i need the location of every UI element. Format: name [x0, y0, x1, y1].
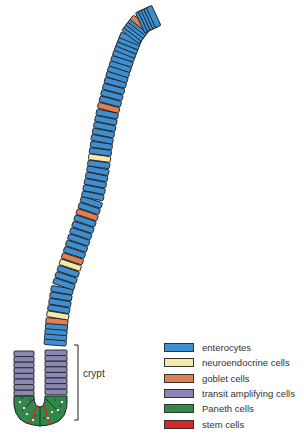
- transit-amplifying-cell: [45, 378, 67, 384]
- transit-amplifying-cell: [45, 356, 67, 362]
- granule: [56, 408, 59, 411]
- granule: [50, 410, 53, 413]
- legend-item-goblet: goblet cells: [164, 371, 295, 386]
- granule-dot: [59, 405, 60, 406]
- granule: [22, 406, 25, 409]
- transit-amplifying-cell: [45, 372, 67, 378]
- legend-label: goblet cells: [202, 373, 250, 384]
- transit-amplifying-cell: [14, 390, 34, 396]
- legend-item-stem: stem cells: [164, 416, 295, 431]
- granule: [46, 416, 49, 419]
- legend-label: neuroendocrine cells: [202, 357, 290, 368]
- legend: enterocytes neuroendocrine cells goblet …: [164, 340, 295, 432]
- legend-item-neuroendocrine: neuroendocrine cells: [164, 355, 295, 370]
- legend-item-paneth: Paneth cells: [164, 401, 295, 416]
- legend-label: transit amplifying cells: [202, 388, 295, 399]
- transit-amplifying-cell: [14, 357, 34, 363]
- swatch-paneth: [164, 404, 194, 413]
- granule-dot: [21, 397, 22, 398]
- legend-label: Paneth cells: [202, 403, 254, 414]
- granule-dot: [54, 399, 55, 400]
- swatch-enterocytes: [164, 343, 194, 352]
- transit-amplifying-cell: [14, 351, 34, 357]
- transit-amplifying-cell: [45, 367, 67, 373]
- granule-dot: [35, 415, 36, 416]
- granule-dot: [43, 417, 44, 418]
- transit-amplifying-cell: [14, 373, 34, 379]
- swatch-transit: [164, 389, 194, 398]
- legend-item-enterocytes: enterocytes: [164, 340, 295, 355]
- transit-amplifying-cell: [14, 379, 34, 385]
- swatch-goblet: [164, 374, 194, 383]
- transit-amplifying-cell: [45, 389, 67, 395]
- villus-cell-strand: [44, 5, 161, 346]
- legend-label: stem cells: [202, 419, 244, 430]
- granule: [25, 412, 28, 415]
- transit-amplifying-cell: [14, 362, 34, 368]
- legend-item-transit: transit amplifying cells: [164, 386, 295, 401]
- crypt-label: crypt: [83, 368, 105, 379]
- transit-amplifying-cell: [45, 361, 67, 367]
- legend-label: enterocytes: [202, 342, 251, 353]
- transit-amplifying-cell: [45, 384, 67, 390]
- crypt-structure: [14, 350, 67, 427]
- transit-amplifying-cell: [14, 368, 34, 374]
- swatch-stem: [164, 420, 194, 429]
- granule: [60, 400, 63, 403]
- granule: [31, 418, 34, 421]
- transit-amplifying-cell: [45, 350, 67, 356]
- granule: [18, 400, 21, 403]
- granule-dot: [29, 399, 30, 400]
- transit-amplifying-cell: [14, 385, 34, 391]
- crypt-bracket: [74, 345, 78, 420]
- swatch-neuroendocrine: [164, 358, 194, 367]
